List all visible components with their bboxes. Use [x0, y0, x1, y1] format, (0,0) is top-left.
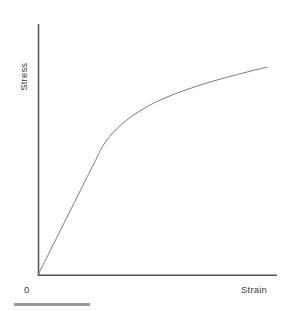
x-axis-label: Strain — [241, 285, 267, 295]
stress-strain-figure: Stress Strain 0 — [0, 0, 291, 311]
origin-label: 0 — [24, 285, 29, 295]
scale-bar — [14, 303, 90, 306]
stress-strain-curve — [38, 67, 267, 275]
y-axis-label: Stress — [19, 53, 29, 101]
plot-area — [0, 0, 291, 311]
